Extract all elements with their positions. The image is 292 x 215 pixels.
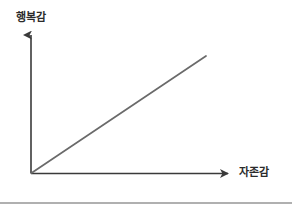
axes-plot-area xyxy=(0,0,292,215)
x-axis-label: 자존감 xyxy=(239,167,270,178)
trend-line xyxy=(32,56,207,173)
bottom-divider xyxy=(0,202,292,204)
graph-figure: 행복감 자존감 xyxy=(0,0,292,215)
y-axis-label: 행복감 xyxy=(16,12,47,23)
